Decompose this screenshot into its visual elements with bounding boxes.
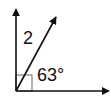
angle-diagram: 2 63° bbox=[0, 0, 111, 105]
angle-2-label: 2 bbox=[23, 28, 33, 48]
angle-63-label: 63° bbox=[37, 65, 64, 85]
